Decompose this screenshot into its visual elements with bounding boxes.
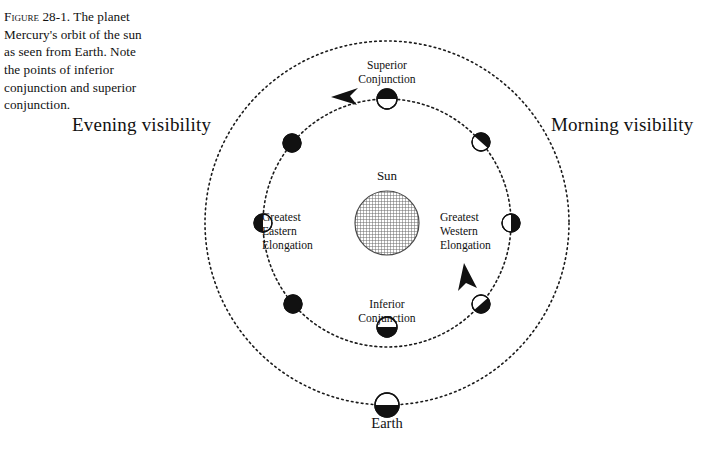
orbit-arrow-top	[331, 88, 358, 105]
evening-visibility-label: Evening visibility	[72, 114, 211, 136]
greatest-western-elongation-label: Greatest Western Elongation	[440, 211, 520, 253]
figure-caption: Figure 28-1. The planet Mercury's orbit …	[4, 8, 152, 114]
body-superior-conjunction	[377, 89, 397, 109]
body-phase-lower-left	[280, 291, 305, 316]
morning-visibility-label: Morning visibility	[551, 114, 693, 136]
body-phase-lower-right	[472, 295, 500, 323]
orbit-arrow-lower-right	[458, 263, 477, 291]
greatest-eastern-elongation-label: Greatest Eastern Elongation	[262, 211, 338, 253]
superior-conjunction-label: Superior Conjunction	[340, 59, 434, 87]
sun-disc	[355, 191, 419, 255]
sun-label: Sun	[357, 168, 417, 184]
body-phase-upper-right	[472, 123, 500, 151]
figure-caption-text: The planet Mercury's orbit of the sun as…	[4, 9, 142, 112]
body-earth	[375, 393, 399, 417]
inferior-conjunction-label: Inferior Conjunction	[341, 298, 433, 326]
figure-caption-lead: Figure 28-1.	[4, 9, 70, 24]
figure-root: Figure 28-1. The planet Mercury's orbit …	[0, 0, 728, 450]
earth-label: Earth	[347, 415, 427, 432]
body-phase-upper-left	[279, 130, 304, 155]
